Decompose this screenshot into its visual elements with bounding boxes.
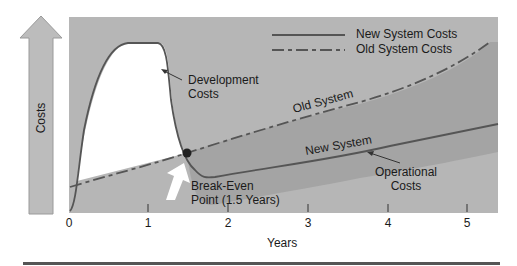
legend-new-label: New System Costs	[356, 27, 457, 41]
x-axis-label: Years	[267, 236, 297, 250]
op-costs-label-1: Operational	[375, 165, 437, 179]
op-costs-label-2: Costs	[391, 179, 422, 193]
y-axis-label: Costs	[34, 103, 48, 134]
svg-text:3: 3	[305, 216, 312, 230]
svg-text:0: 0	[66, 216, 73, 230]
svg-text:5: 5	[464, 216, 471, 230]
svg-text:1: 1	[145, 216, 152, 230]
bottom-rule	[23, 262, 500, 265]
break-even-label-2: Point (1.5 Years)	[191, 193, 280, 207]
cost-chart: Costs New System Costs Old System Costs …	[0, 0, 517, 266]
dev-costs-label-1: Development	[188, 73, 259, 87]
svg-text:2: 2	[225, 216, 232, 230]
break-even-point	[183, 149, 192, 158]
svg-text:4: 4	[385, 216, 392, 230]
break-even-label-1: Break-Even	[191, 179, 254, 193]
dev-costs-label-2: Costs	[188, 87, 219, 101]
x-tick-labels: 0 1 2 3 4 5	[66, 216, 471, 230]
legend-old-label: Old System Costs	[356, 42, 452, 56]
